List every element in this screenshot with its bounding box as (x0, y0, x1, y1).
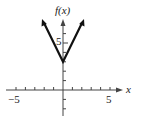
y-axis-label: f(x) (55, 5, 70, 16)
y-ticks (63, 34, 68, 109)
graph-canvas (0, 0, 142, 122)
x-axis-arrow-icon (116, 88, 123, 93)
x-axis-label: x (126, 84, 131, 95)
x-tick-label-5: 5 (106, 94, 112, 105)
x-tick-label-neg5: −5 (8, 94, 20, 105)
y-axis-arrow-icon (61, 19, 66, 26)
y-tick-label-5: 5 (56, 36, 62, 47)
